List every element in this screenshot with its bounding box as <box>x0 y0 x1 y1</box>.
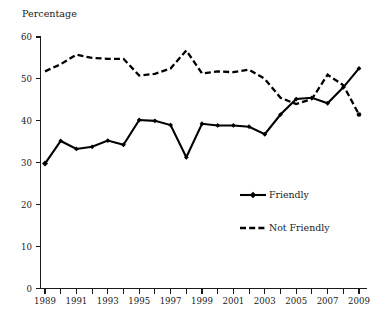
x-tick-label: 1993 <box>97 296 119 306</box>
y-tick-label: 60 <box>21 32 32 42</box>
line-chart: Percentage 0102030405060 198919911993199… <box>0 0 387 314</box>
series-line <box>45 50 359 114</box>
data-point-marker <box>215 123 220 128</box>
y-tick-label: 40 <box>21 116 32 126</box>
legend-swatch-marker <box>250 192 256 198</box>
data-point-marker <box>153 118 158 123</box>
y-tick-label: 20 <box>21 200 32 210</box>
x-axis-ticks: 1989199119931995199719992001200320052007… <box>34 289 370 306</box>
legend-item-not-friendly[interactable]: Not Friendly <box>240 222 330 233</box>
data-point-marker <box>231 123 236 128</box>
chart-container: Percentage 0102030405060 198919911993199… <box>0 0 387 314</box>
series-not-friendly <box>45 50 361 116</box>
chart-legend: FriendlyNot Friendly <box>240 189 330 233</box>
x-tick-label: 2001 <box>222 296 244 306</box>
y-tick-label: 30 <box>21 158 32 168</box>
y-tick-label: 50 <box>21 74 32 84</box>
series-layer <box>42 50 361 166</box>
x-tick-label: 1989 <box>34 296 56 306</box>
y-axis-ticks: 0102030405060 <box>21 32 40 294</box>
legend-label: Friendly <box>269 189 310 200</box>
x-tick-label: 2005 <box>285 296 307 306</box>
x-tick-label: 2003 <box>254 296 276 306</box>
series-line <box>45 68 359 163</box>
x-tick-label: 1999 <box>191 296 213 306</box>
x-tick-label: 1991 <box>65 296 87 306</box>
series-friendly <box>42 66 361 167</box>
x-tick-label: 2009 <box>348 296 370 306</box>
legend-item-friendly[interactable]: Friendly <box>240 189 310 200</box>
data-point-marker <box>357 112 362 117</box>
y-tick-label: 10 <box>21 242 32 252</box>
y-tick-label: 0 <box>27 284 32 294</box>
legend-label: Not Friendly <box>269 222 330 233</box>
x-tick-label: 2007 <box>317 296 339 306</box>
x-tick-label: 1997 <box>160 296 182 306</box>
x-tick-label: 1995 <box>128 296 150 306</box>
y-axis-title: Percentage <box>22 8 77 19</box>
